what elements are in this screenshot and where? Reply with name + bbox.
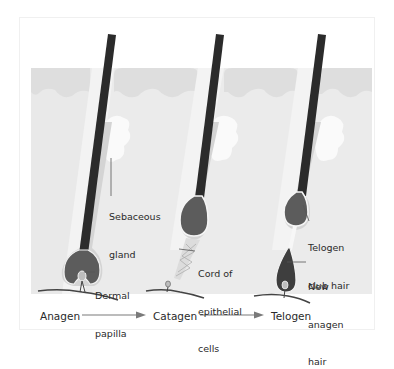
epithelial-cord-label-line1: Cord of [198,268,242,281]
new-anagen-hair-label-line1: New [308,281,344,294]
telogen-club-hair-label-line1: Telogen [308,242,349,255]
dermal-papilla-label-line1: Dermal [95,290,130,303]
new-anagen-hair-label-line3: hair [308,356,344,369]
new-anagen-hair-label-line2: anagen [308,319,344,332]
epithelial-cord-label-line2: epithelial [198,306,242,319]
sebaceous-gland-label-line1: Sebaceous [109,211,161,224]
stage-anagen: Anagen [40,309,80,323]
stage-telogen: Telogen [271,309,311,323]
new-anagen-hair-label: New anagen hair [308,256,344,369]
dermal-papilla-label-line2: papilla [95,328,130,341]
dermal-papilla-label: Dermal papilla [95,265,130,353]
sebaceous-gland-label-line2: gland [109,249,161,262]
epithelial-cord-label-line3: cells [198,343,242,356]
sebaceous-gland-label: Sebaceous gland [109,186,161,274]
stage-catagen: Catagen [153,309,197,323]
epithelial-cord-label: Cord of epithelial cells [198,243,242,368]
